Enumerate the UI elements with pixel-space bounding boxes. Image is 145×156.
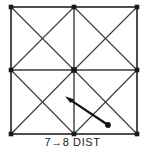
arrow-tail-dot	[105, 122, 111, 128]
figure-caption: 7→8 DIST	[0, 136, 145, 148]
grid-diagram	[0, 0, 145, 140]
node-edge-top-mid	[72, 5, 77, 10]
node-corner-top-left	[9, 5, 14, 10]
quadrant-top-right-diagonals	[74, 7, 137, 70]
quadrant-top-left-diagonals	[11, 7, 74, 70]
node-corner-top-right	[135, 5, 140, 10]
quadrant-bottom-left-diagonals	[11, 70, 74, 134]
node-edge-left-mid	[9, 68, 14, 73]
node-edge-right-mid	[135, 68, 140, 73]
node-center	[71, 67, 77, 73]
figure-panel: 7→8 DIST	[0, 0, 145, 156]
arrow-shaft	[70, 99, 109, 125]
